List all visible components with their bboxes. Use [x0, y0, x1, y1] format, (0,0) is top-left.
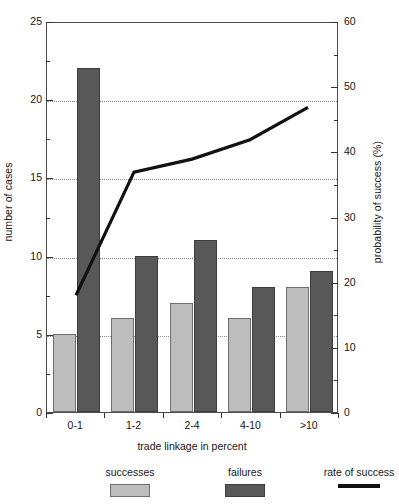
y-ticklabel-left: 10: [2, 250, 42, 262]
rate-of-success-line: [76, 107, 308, 295]
y-tick-left: [46, 178, 53, 179]
x-tick: [163, 413, 164, 418]
legend-label: rate of success: [304, 466, 399, 478]
x-tick: [104, 413, 105, 418]
legend-label: failures: [210, 466, 280, 478]
y-ticklabel-right: 50: [344, 80, 384, 92]
y-minortick-left: [46, 61, 50, 62]
x-tick: [280, 413, 281, 418]
y-ticklabel-left: 15: [2, 171, 42, 183]
y-ticklabel-right: 20: [344, 276, 384, 288]
y-minortick-left: [46, 139, 50, 140]
y-ticklabel-right: 40: [344, 145, 384, 157]
y-minortick-right: [334, 55, 338, 56]
y-minortick-right: [334, 185, 338, 186]
y-tick-left: [46, 257, 53, 258]
y-tick-left: [46, 335, 53, 336]
y-tick-right: [331, 218, 338, 219]
x-ticklabel-1-2: 1-2: [104, 419, 164, 431]
legend-label: successes: [80, 466, 180, 478]
x-tick: [46, 413, 47, 418]
y-axis-title-left: number of cases: [2, 142, 14, 262]
y-minortick-right: [334, 380, 338, 381]
y-tick-right: [331, 152, 338, 153]
y-tick-left: [46, 100, 53, 101]
legend-item-successes[interactable]: successes: [80, 466, 180, 497]
y-tick-left: [46, 413, 53, 414]
y-minortick-right: [334, 120, 338, 121]
y-ticklabel-left: 0: [2, 406, 42, 418]
y-tick-right: [331, 283, 338, 284]
y-ticklabel-left: 5: [2, 328, 42, 340]
y-tick-right: [331, 22, 338, 23]
x-axis-title: trade linkage in percent: [46, 440, 338, 452]
legend-swatch-successes: [110, 484, 150, 497]
y-minortick-left: [46, 296, 50, 297]
x-ticklabel->10: >10: [279, 419, 339, 431]
line-series-layer: [47, 23, 337, 412]
y-ticklabel-right: 60: [344, 15, 384, 27]
y-minortick-left: [46, 218, 50, 219]
x-ticklabel-2-4: 2-4: [162, 419, 222, 431]
y-ticklabel-right: 10: [344, 341, 384, 353]
y-tick-left: [46, 22, 53, 23]
y-minortick-right: [334, 250, 338, 251]
y-minortick-left: [46, 374, 50, 375]
y-ticklabel-right: 0: [344, 406, 384, 418]
x-tick: [221, 413, 222, 418]
y-ticklabel-left: 25: [2, 15, 42, 27]
y-ticklabel-left: 20: [2, 93, 42, 105]
x-ticklabel-4-10: 4-10: [220, 419, 280, 431]
y-tick-right: [331, 413, 338, 414]
legend-swatch-line: [338, 484, 380, 488]
x-tick: [338, 413, 339, 418]
x-ticklabel-0-1: 0-1: [45, 419, 105, 431]
y-tick-right: [331, 87, 338, 88]
plot-area: [46, 22, 338, 413]
y-tick-right: [331, 348, 338, 349]
y-ticklabel-right: 30: [344, 211, 384, 223]
chart-legend: successesfailuresrate of success: [46, 466, 356, 504]
y-minortick-right: [334, 315, 338, 316]
legend-item-failures[interactable]: failures: [210, 466, 280, 497]
legend-item-rate-of-success[interactable]: rate of success: [304, 466, 399, 488]
legend-swatch-failures: [225, 484, 265, 497]
